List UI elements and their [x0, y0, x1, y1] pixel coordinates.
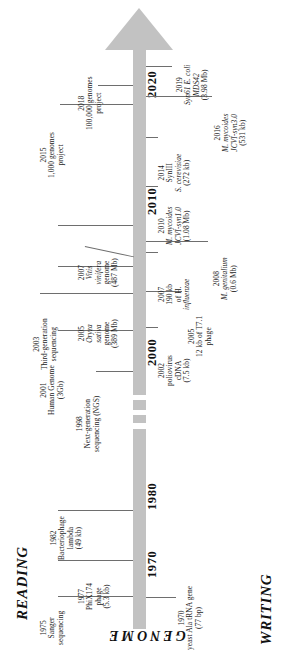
leader-line-2002 — [146, 327, 158, 328]
event-label-2005-oryza: 2005 Oryza sativa genome (389 Mb) — [78, 319, 119, 348]
timeline-figure: 2020 2010 2000 1980 1970 2018 100,000 ge… — [0, 0, 288, 659]
event-line-3: (272 kb) — [183, 154, 191, 192]
event-line-2: sequencing — [57, 611, 65, 645]
event-line-3: (1.08 Mb) — [183, 207, 191, 245]
axis-year-1970: 1970 — [145, 551, 160, 578]
axis-year-1980: 1980 — [145, 483, 160, 510]
event-label-1982: 1982 Bacteriophage lambda (49 kb) — [50, 516, 83, 560]
event-line-3: (531 kb) — [239, 114, 247, 152]
leader-line-2003 — [40, 293, 133, 294]
event-line-3: (5.3 kb) — [103, 583, 111, 610]
leader-line-1977 — [58, 560, 133, 561]
event-label-2007-influenzae: 2007 190 kb of H. influenzae — [158, 279, 191, 310]
event-line-4: (487 Mb) — [111, 258, 119, 287]
leader-line-1970 — [146, 597, 176, 598]
event-line-2: (3Gb) — [57, 365, 65, 415]
event-label-2002: 2002 poliovirus cDNA (7.5 kb) — [158, 355, 191, 386]
leader-line-1982 — [58, 510, 133, 511]
event-label-2014: 2014 SynIII S. cerevisiae (272 kb) — [158, 154, 191, 192]
event-label-2019: 2019 Syn61 E. coli MDS42 (3.98 Mb) — [176, 64, 209, 105]
timeline-bar-break-dash-1 — [133, 400, 146, 410]
event-line-3: (49 kb) — [75, 516, 83, 560]
event-line-2: sequencing — [50, 318, 58, 370]
timeline-bar-lower — [133, 429, 146, 629]
event-label-1977: 1977 PhiX174 phage (5.3 kb) — [78, 583, 111, 610]
event-label-2001: 2001 Human Genome (3Gb) — [40, 365, 65, 415]
timeline-bar-break-dash-2 — [133, 415, 146, 423]
event-label-2016: 2016 M. mycoides JCVI-syn3.0 (531 kb) — [214, 114, 247, 152]
event-line-2: sequencing (NGS) — [93, 396, 101, 452]
event-line-3: influenzae — [183, 279, 191, 310]
leader-line-2018 — [98, 85, 133, 86]
writing-axis-label: WRITING — [258, 574, 275, 645]
leader-line-2014 — [146, 137, 158, 138]
event-line-3: (7.5 kb) — [183, 355, 191, 386]
event-line-2: (0.6 Mb) — [230, 257, 238, 300]
event-label-1998: 1998 Next-generation sequencing (NGS) — [76, 396, 101, 452]
event-line-2: project — [95, 76, 103, 130]
event-label-2005-t7: 2005 12 kb of T7.1 phage — [188, 316, 213, 357]
event-label-2008: 2008 M. genitalium (0.6 Mb) — [213, 257, 238, 300]
leader-line-2010 — [146, 186, 158, 187]
genome-axis-label: GENOME — [86, 627, 206, 643]
event-label-1975: 1975 Sanger sequencing — [40, 611, 65, 645]
axis-year-2020: 2020 — [145, 71, 160, 98]
event-label-2010: 2010 M. mycoides JCVI-syn1.0 (1.08 Mb) — [158, 207, 191, 245]
leader-line-diagonal — [85, 246, 134, 257]
event-label-2003: 2003 Third-generation sequencing — [33, 318, 58, 370]
event-line-2: phage — [205, 316, 213, 357]
leader-line-2007-influenzae — [146, 252, 158, 253]
timeline-arrowhead — [105, 8, 173, 50]
leader-line-2019 — [146, 66, 172, 67]
leader-line-1998 — [96, 371, 133, 372]
event-label-2018: 2018 100,000 genomes project — [78, 76, 103, 130]
event-label-2007-vitis: 2007 Vitis vinifera genome (487 Mb) — [78, 258, 119, 287]
event-line-4: (389 Mb) — [111, 319, 119, 348]
event-label-2015: 2015 1,000 genomes project — [40, 132, 65, 178]
leader-line-2007-vitis — [58, 225, 133, 226]
reading-axis-label: READING — [14, 546, 31, 620]
event-line-3: (3.98 Mb) — [201, 64, 209, 105]
event-line-2: project — [57, 132, 65, 178]
